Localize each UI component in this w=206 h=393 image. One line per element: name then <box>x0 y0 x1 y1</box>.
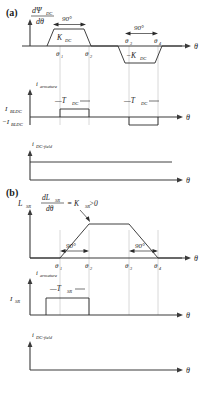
b1-yaxis-label-sub: SR <box>26 204 31 209</box>
a3-x-arrow <box>177 178 183 183</box>
b1-span-right-label: 90° <box>135 242 145 250</box>
a1-kdc-label: K <box>56 33 63 42</box>
b3-yaxis-label-sub: DC-field <box>35 335 53 340</box>
b1-theta3-sub: 3 <box>130 266 132 271</box>
b1-x-arrow <box>185 256 191 261</box>
b1-theta2-sub: 2 <box>90 266 92 271</box>
a2-tdc-left: —T <box>54 96 67 105</box>
a1-negkdc-label: −K <box>126 51 137 60</box>
b1-theta2: θ <box>85 262 89 270</box>
a2-x-arrow <box>177 115 183 120</box>
subplot-a3: i DC-field θ <box>28 140 190 185</box>
a3-yaxis-label: i <box>32 140 34 147</box>
b3-x-arrow <box>177 368 183 373</box>
a1-theta2: θ <box>85 50 89 58</box>
a3-xaxis-label: θ <box>186 176 190 185</box>
b2-level-label-sub: SR <box>15 299 20 304</box>
a2-level-negative: −I <box>2 118 10 126</box>
subplot-b1: L SR dL SR dθ = K SR >0 θ 90° <box>17 193 198 271</box>
panel-b-tag: (b) <box>6 187 18 199</box>
a1-theta1-sub: 1 <box>61 54 63 59</box>
a2-yaxis-label-sub: armature <box>40 84 57 89</box>
b1-span-right: 90° <box>129 242 158 253</box>
a1-theta4-sub: 4 <box>159 41 161 46</box>
subplot-b2: i armature θ I SR —T SR <box>9 269 190 320</box>
a2-tdc-right: —T <box>123 96 136 105</box>
a1-theta1: θ <box>56 50 60 58</box>
b1-span-left-label: 90° <box>66 242 76 250</box>
a1-theta2-sub: 2 <box>90 54 92 59</box>
a2-pulse-negative <box>129 117 158 125</box>
b2-xaxis-label: θ <box>186 311 190 320</box>
a2-yaxis-label: i <box>36 80 38 87</box>
a1-span-right-label: 90° <box>134 24 144 32</box>
b2-x-arrow <box>177 313 183 318</box>
a3-yaxis-label-sub: DC-field <box>35 144 53 149</box>
b3-xaxis-label: θ <box>186 366 190 375</box>
a1-span-left-label: 90° <box>62 15 72 23</box>
a1-theta3-sub: 3 <box>130 41 132 46</box>
b1-yaxis-label: L <box>17 199 23 208</box>
subplot-a1: dΨ DC dθ θ K DC −K DC 90° 90° <box>22 6 198 63</box>
a1-y-arrow <box>28 19 33 25</box>
a2-level-negative-sub: BLDC <box>11 122 24 127</box>
b1-annotation-numerator-sub: SR <box>55 198 60 203</box>
a1-negkdc-label-sub: DC <box>139 56 147 61</box>
a2-xaxis-label: θ <box>186 113 190 122</box>
b1-annotation-equals: = K <box>67 199 80 208</box>
b2-level-label: I <box>9 295 13 303</box>
a1-theta3: θ <box>125 37 129 45</box>
a2-tdc-left-sub: DC <box>71 101 79 106</box>
a2-level-positive-sub: BLDC <box>10 109 23 114</box>
a1-yaxis-denominator: dθ <box>36 17 44 26</box>
a1-x-arrow <box>185 44 191 49</box>
b2-yaxis-label: i <box>36 269 38 276</box>
a3-y-arrow <box>28 150 33 156</box>
b1-xaxis-label: θ <box>194 254 198 263</box>
b1-theta4-sub: 4 <box>159 266 161 271</box>
a1-yaxis-numerator-sub: DC <box>45 11 53 16</box>
b3-y-arrow <box>28 341 33 347</box>
a1-theta4: θ <box>154 37 158 45</box>
b1-annotation-tail: >0 <box>89 199 98 208</box>
a1-kdc-label-sub: DC <box>64 38 72 43</box>
subplot-b3: i DC-field θ <box>28 331 190 375</box>
b1-slope-annotation: dL SR dθ = K SR >0 <box>41 193 98 222</box>
a1-yaxis-numerator: dΨ <box>32 6 43 15</box>
figure-root: (a) dΨ DC dθ θ K DC −K DC 90° <box>0 0 206 393</box>
b1-annotation-numerator: dL <box>42 193 50 202</box>
a1-span-right: 90° <box>125 24 158 36</box>
b1-span-left: 90° <box>60 242 89 253</box>
b2-pulse <box>46 298 89 315</box>
b1-theta1: θ <box>55 262 59 270</box>
a1-xaxis-label: θ <box>194 42 198 51</box>
b1-theta1-sub: 1 <box>60 266 62 271</box>
b2-y-arrow <box>28 278 33 284</box>
a1-span-left: 90° <box>53 15 86 27</box>
b1-y-arrow <box>28 209 33 215</box>
b3-yaxis-label: i <box>32 331 34 338</box>
b1-theta3: θ <box>125 262 129 270</box>
b1-trace <box>30 224 182 258</box>
b1-theta4: θ <box>154 262 158 270</box>
b2-tsr-label-sub: SR <box>67 289 72 294</box>
a2-y-arrow <box>28 89 33 95</box>
a2-level-positive: I <box>4 105 8 113</box>
b2-tsr-label: —T <box>49 284 62 293</box>
b1-annotation-denominator: dθ <box>46 204 54 213</box>
panel-a-tag: (a) <box>6 7 18 19</box>
waveform-figure: (a) dΨ DC dθ θ K DC −K DC 90° <box>0 0 206 393</box>
b2-yaxis-label-sub: armature <box>40 273 57 278</box>
a2-tdc-right-sub: DC <box>140 101 148 106</box>
a2-pulse-positive <box>60 109 89 117</box>
subplot-a2: i armature θ I BLDC −I BLDC —T DC —T DC <box>2 80 190 127</box>
